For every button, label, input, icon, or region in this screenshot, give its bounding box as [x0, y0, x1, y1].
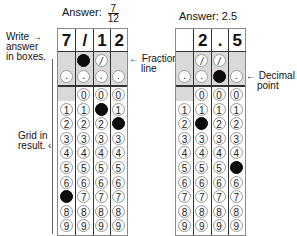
digit-bubble[interactable]: 6 [230, 176, 243, 189]
digit-bubble[interactable]: 1 [77, 103, 90, 116]
answer-box[interactable]: 1 [94, 29, 111, 52]
digit-bubble[interactable]: 8 [213, 205, 226, 218]
answer-box[interactable] [176, 29, 193, 52]
digit-bubble[interactable]: 8 [112, 205, 125, 218]
digit-bubble[interactable]: 9 [60, 219, 73, 232]
digit-bubble[interactable]: 7 [195, 190, 208, 203]
digit-bubble[interactable]: 9 [178, 219, 191, 232]
digit-bubble[interactable]: 3 [77, 132, 90, 145]
digit-bubble[interactable]: 4 [60, 146, 73, 159]
answer-box[interactable]: 5 [229, 29, 246, 52]
digit-bubble[interactable]: 1 [112, 103, 125, 116]
digit-bubble[interactable]: 5 [195, 161, 208, 174]
digit-bubble[interactable]: 1 [60, 103, 73, 116]
decimal-bubble[interactable] [112, 70, 125, 83]
digit-bubble[interactable]: 7 [112, 190, 125, 203]
answer-box[interactable]: . [212, 29, 229, 52]
digit-bubble[interactable]: 0 [213, 88, 226, 101]
digit-bubble[interactable]: 3 [95, 132, 108, 145]
digit-bubble[interactable]: 2 [60, 117, 73, 130]
digit-bubble[interactable]: 9 [230, 219, 243, 232]
digit-bubble[interactable]: 5 [112, 161, 125, 174]
digit-bubble[interactable]: 2 [178, 117, 191, 130]
digit-bubble[interactable]: 3 [195, 132, 208, 145]
digit-bubble[interactable]: 3 [230, 132, 243, 145]
digit-bubble[interactable]: 4 [178, 146, 191, 159]
digit-bubble[interactable]: 4 [112, 146, 125, 159]
digit-bubble[interactable]: 6 [195, 176, 208, 189]
digit-bubble[interactable]: 3 [213, 132, 226, 145]
digit-bubble[interactable]: 8 [95, 205, 108, 218]
slash-bubble[interactable]: / [195, 54, 208, 67]
filled-digit-bubble[interactable]: 5 [230, 161, 243, 174]
digit-bubble[interactable]: 2 [213, 117, 226, 130]
digit-bubble[interactable]: 5 [213, 161, 226, 174]
digit-bubble[interactable]: 6 [77, 176, 90, 189]
filled-decimal-bubble[interactable] [213, 70, 226, 83]
decimal-bubble[interactable] [77, 70, 90, 83]
digit-bubble[interactable]: 0 [112, 88, 125, 101]
digit-bubble[interactable]: 4 [95, 146, 108, 159]
digit-bubble[interactable]: 6 [60, 176, 73, 189]
digit-bubble[interactable]: 8 [77, 205, 90, 218]
answer-box[interactable]: 2 [111, 29, 128, 52]
digit-bubble[interactable]: 1 [178, 103, 191, 116]
digit-bubble[interactable]: 5 [95, 161, 108, 174]
digit-bubble[interactable]: 7 [77, 190, 90, 203]
filled-digit-bubble[interactable]: 2 [112, 117, 125, 130]
digit-bubble[interactable]: 0 [95, 88, 108, 101]
digit-bubble[interactable]: 5 [60, 161, 73, 174]
digit-bubble[interactable]: 8 [178, 205, 191, 218]
digit-bubble[interactable]: 3 [178, 132, 191, 145]
digit-bubble[interactable]: 3 [112, 132, 125, 145]
digit-bubble[interactable]: 3 [60, 132, 73, 145]
digit-bubble[interactable]: 9 [77, 219, 90, 232]
answer-box[interactable]: 7 [58, 29, 75, 52]
answer-box[interactable]: / [76, 29, 93, 52]
decimal-bubble[interactable] [178, 70, 191, 83]
digit-bubble[interactable]: 2 [230, 117, 243, 130]
digit-bubble[interactable]: 2 [95, 117, 108, 130]
digit-bubble[interactable]: 7 [95, 190, 108, 203]
digit-bubble[interactable]: 0 [195, 88, 208, 101]
grid-bracket-line [52, 59, 53, 234]
filled-digit-bubble[interactable]: 2 [195, 117, 208, 130]
digit-bubble[interactable]: 4 [213, 146, 226, 159]
answer-box[interactable]: 2 [194, 29, 211, 52]
decimal-bubble[interactable] [95, 70, 108, 83]
digit-bubble[interactable]: 9 [213, 219, 226, 232]
decimal-bubble[interactable] [195, 70, 208, 83]
digit-bubble[interactable]: 4 [230, 146, 243, 159]
digit-bubble[interactable]: 5 [77, 161, 90, 174]
decimal-bubble[interactable] [60, 70, 73, 83]
digit-bubble[interactable]: 8 [60, 205, 73, 218]
digit-bubble[interactable]: 0 [230, 88, 243, 101]
digit-bubble[interactable]: 1 [230, 103, 243, 116]
decimal-bubble[interactable] [230, 70, 243, 83]
digit-bubble[interactable]: 0 [77, 88, 90, 101]
digit-bubble[interactable]: 8 [230, 205, 243, 218]
filled-slash-bubble[interactable] [77, 54, 90, 67]
digit-bubble[interactable]: 7 [178, 190, 191, 203]
filled-digit-bubble[interactable]: 7 [60, 190, 73, 203]
digit-bubble[interactable]: 1 [195, 103, 208, 116]
digit-bubble[interactable]: 9 [195, 219, 208, 232]
digit-bubble[interactable]: 9 [112, 219, 125, 232]
slash-bubble[interactable]: / [213, 54, 226, 67]
grid-column: ./0123456789 [211, 29, 229, 235]
digit-bubble[interactable]: 6 [213, 176, 226, 189]
slash-bubble[interactable]: / [95, 54, 108, 67]
digit-bubble[interactable]: 8 [195, 205, 208, 218]
digit-bubble[interactable]: 7 [230, 190, 243, 203]
digit-bubble[interactable]: 1 [213, 103, 226, 116]
digit-bubble[interactable]: 4 [195, 146, 208, 159]
digit-bubble[interactable]: 2 [77, 117, 90, 130]
filled-digit-bubble[interactable]: 1 [95, 103, 108, 116]
digit-bubble[interactable]: 6 [95, 176, 108, 189]
digit-bubble[interactable]: 7 [213, 190, 226, 203]
digit-bubble[interactable]: 4 [77, 146, 90, 159]
digit-bubble[interactable]: 9 [95, 219, 108, 232]
digit-bubble[interactable]: 6 [178, 176, 191, 189]
digit-bubble[interactable]: 5 [178, 161, 191, 174]
digit-bubble[interactable]: 6 [112, 176, 125, 189]
